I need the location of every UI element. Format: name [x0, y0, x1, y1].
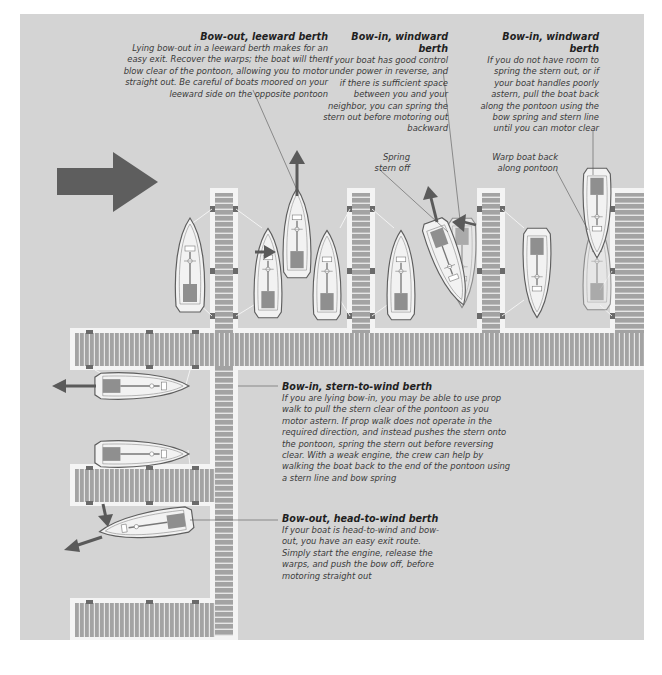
caption-title: Bow-in, stern-to-wind berth	[282, 381, 512, 393]
caption-bow-out-head-to-wind: Bow-out, head-to-wind berth If your boat…	[282, 513, 452, 582]
boat-bow-out-leeward-left	[175, 218, 204, 312]
boat-stern-to-wind	[95, 373, 189, 400]
boat-neighbor-2	[313, 230, 341, 319]
caption-body: If your boat has good control under powe…	[322, 55, 448, 135]
boat-bow-out-leeward	[283, 188, 311, 277]
boat-lower-neighbor	[95, 441, 189, 468]
boat-head-to-wind	[98, 506, 195, 545]
caption-title: Bow-out, leeward berth	[114, 31, 328, 43]
label-spring-stern-off: Spring stern off	[360, 152, 410, 174]
caption-title: Bow-in, windward berth	[475, 31, 599, 55]
boat-neighbor-4	[523, 228, 551, 317]
caption-bow-out-leeward: Bow-out, leeward berth Lying bow-out in …	[114, 31, 328, 100]
boat-neighbor-1	[254, 228, 282, 317]
caption-bow-in-stern-to-wind: Bow-in, stern-to-wind berth If you are l…	[282, 381, 512, 484]
caption-title: Bow-out, head-to-wind berth	[282, 513, 452, 525]
caption-body: Lying bow-out in a leeward berth makes f…	[114, 43, 328, 100]
caption-body: If you are lying bow-in, you may be able…	[282, 393, 512, 484]
caption-body: If your boat is head-to-wind and bow-out…	[282, 525, 452, 582]
label-warp-boat-back: Warp boat back along pontoon	[492, 152, 558, 174]
wind-arrow-icon	[57, 152, 158, 212]
caption-bow-in-windward-spring: Bow-in, windward berth If your boat has …	[322, 31, 448, 135]
caption-bow-in-windward-warp: Bow-in, windward berth If you do not hav…	[475, 31, 599, 135]
boat-neighbor-3	[387, 230, 415, 319]
caption-title: Bow-in, windward berth	[322, 31, 448, 55]
caption-body: If you do not have room to spring the st…	[475, 55, 599, 135]
